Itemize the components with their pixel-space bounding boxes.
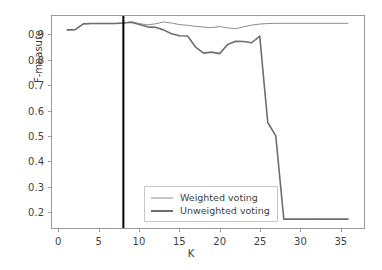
x-tick-label: 0 [55,236,61,247]
y-tick-mark [48,136,51,137]
y-tick-mark [48,161,51,162]
x-axis-ticks: 05101520253035 [0,232,382,248]
legend-label-weighted: Weighted voting [180,192,258,203]
y-tick-mark [48,111,51,112]
x-tick-mark [179,229,180,232]
x-tick-mark [139,229,140,232]
legend: Weighted voting Unweighted voting [144,186,278,222]
y-tick-mark [48,60,51,61]
legend-item-weighted-voting: Weighted voting [151,191,270,204]
legend-item-unweighted-voting: Unweighted voting [151,204,270,217]
x-tick-mark [58,229,59,232]
x-tick-label: 30 [294,236,307,247]
legend-line-icon-unweighted [151,206,173,216]
x-tick-mark [341,229,342,232]
x-tick-label: 25 [254,236,267,247]
y-tick-mark [48,212,51,213]
y-axis-label: F-measure [33,0,44,128]
legend-label-unweighted: Unweighted voting [180,205,270,216]
x-tick-label: 10 [133,236,146,247]
x-tick-label: 15 [173,236,186,247]
x-tick-label: 20 [213,236,226,247]
y-tick-mark [48,34,51,35]
x-tick-label: 35 [334,236,347,247]
x-tick-mark [220,229,221,232]
chart-figure: 0.20.30.40.50.60.70.80.9 05101520253035 … [0,0,382,270]
x-tick-mark [260,229,261,232]
x-tick-label: 5 [95,236,101,247]
y-tick-label: 0.3 [28,181,44,192]
y-tick-label: 0.2 [28,207,44,218]
y-tick-label: 0.5 [28,131,44,142]
y-tick-label: 0.4 [28,156,44,167]
legend-line-icon-weighted [151,193,173,203]
x-axis-label: K [0,248,382,259]
x-tick-mark [300,229,301,232]
x-tick-mark [99,229,100,232]
y-tick-mark [48,187,51,188]
y-tick-mark [48,85,51,86]
